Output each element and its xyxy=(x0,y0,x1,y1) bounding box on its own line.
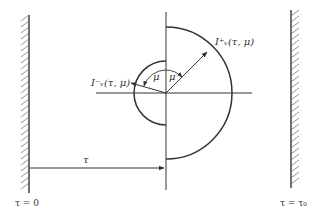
inward-intensity-label: I⁻ᵥ(τ, μ) xyxy=(90,77,130,88)
outward-intensity-label: I⁺ᵥ(τ, μ) xyxy=(214,36,254,47)
radiative-transfer-slab-diagram: I⁺ᵥ(τ, μ) I⁻ᵥ(τ, μ) μ μ τ τ = 0 τ = τ₀ xyxy=(0,0,324,215)
inward-intensity-arrow xyxy=(131,83,166,93)
left-boundary-wall xyxy=(21,15,29,193)
left-boundary-label: τ = 0 xyxy=(15,198,39,208)
outward-angle-label: μ xyxy=(169,71,176,82)
right-boundary-label: τ = τ₀ xyxy=(280,198,307,208)
inward-angle-label: μ xyxy=(153,71,160,82)
depth-arrow-label: τ xyxy=(83,154,89,165)
right-boundary-wall xyxy=(291,10,299,188)
